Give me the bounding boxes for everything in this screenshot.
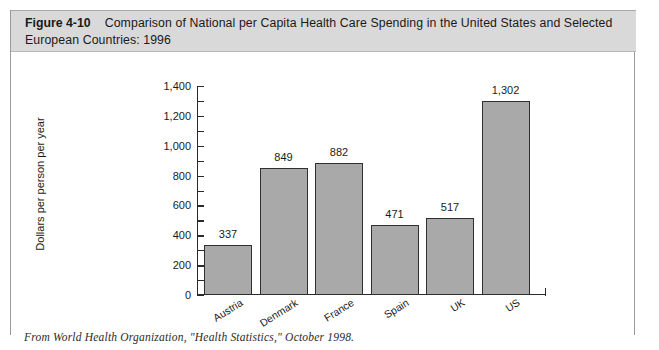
bar [426,218,474,295]
y-axis-tick-labels: 1,4001,2001,0008006004002000 [111,86,191,294]
bar [315,163,363,295]
figure-frame: Figure 4-10 Comparison of National per C… [10,10,635,335]
figure-number: Figure 4-10 [25,16,91,30]
y-axis-title: Dollars per person per year [34,99,46,269]
y-axis-tick-label: 800 [111,170,191,181]
bar-value-label: 517 [420,202,480,213]
y-axis-tick-label: 400 [111,230,191,241]
bar [204,245,252,295]
source-note: From World Health Organization, "Health … [24,331,354,343]
bar-chart: Dollars per person per year 1,4001,2001,… [11,52,636,335]
x-axis-category-label-text: Austria [211,297,245,324]
bar [260,168,308,295]
y-axis-tick-label: 200 [111,260,191,271]
bar-value-label: 849 [254,152,314,163]
x-axis-category-label-text: France [322,297,356,324]
y-axis-tick-label: 1,000 [111,140,191,151]
y-axis-tick-label: 1,400 [111,81,191,92]
bar-value-label: 1,302 [476,85,536,96]
x-axis-category-label-text: Spain [382,297,411,321]
bar-value-label: 882 [309,147,369,158]
y-axis-tick-label: 0 [111,290,191,301]
y-axis-tick-label: 1,200 [111,110,191,121]
x-axis-category-label-text: UK [448,297,466,314]
figure-caption-band: Figure 4-10 Comparison of National per C… [11,10,636,52]
figure-caption-body: Comparison of National per Capita Health… [25,16,613,47]
x-axis-category-label-text: US [504,297,522,314]
figure-caption: Figure 4-10 Comparison of National per C… [25,15,622,48]
bars-layer: 3378498824715171,302 [197,86,546,295]
bar [482,101,530,295]
bar-value-label: 337 [198,229,258,240]
y-axis-tick-label: 600 [111,200,191,211]
x-axis-category-label-text: Denmark [258,297,300,329]
figure-caption-text [91,16,105,30]
bar-value-label: 471 [365,209,425,220]
